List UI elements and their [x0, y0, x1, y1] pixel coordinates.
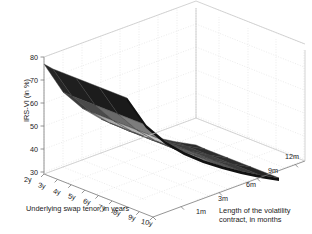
z-axis-label: Length of the volatility contract, in mo…: [219, 207, 311, 224]
figure-canvas: 80 70 60 50 40 30 IRS-VI (in %) 2y 3y 4y…: [0, 0, 312, 234]
axis-lines: [44, 1, 305, 217]
x-axis-label: Underlying swap tenor, in years: [26, 205, 129, 214]
z-tick-6m: 6m: [246, 181, 256, 189]
z-tick-9m: 9m: [268, 167, 278, 175]
surface-mesh: [44, 64, 279, 181]
y-axis-label: IRS-VI (in %): [22, 69, 31, 133]
grid-lines: [44, 1, 305, 217]
x-tick-3y: 3y: [37, 181, 46, 191]
x-tick-9y: 9y: [127, 213, 136, 223]
z-tick-12m: 12m: [285, 153, 299, 161]
z-tick-1m: 1m: [196, 208, 206, 216]
x-tick-2y: 2y: [24, 176, 32, 184]
surface-plot-svg: [0, 0, 312, 234]
y-tick-80: 80: [22, 53, 38, 62]
x-tick-5y: 5y: [67, 192, 76, 202]
x-tick-4y: 4y: [52, 187, 61, 197]
y-tick-40: 40: [22, 145, 38, 154]
z-tick-3m: 3m: [218, 195, 228, 203]
